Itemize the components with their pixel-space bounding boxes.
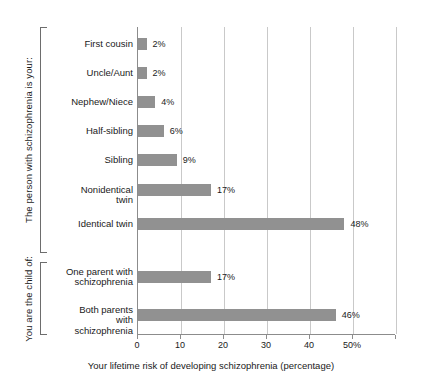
x-tick [137,335,138,339]
group-label-person-with-schizophrenia: The person with schizophrenia is your: [18,27,40,253]
bar-value-label: 6% [164,126,183,136]
category-label: Half-sibling [62,126,133,137]
bar-value-label: 9% [177,155,196,165]
x-axis-title: Your lifetime risk of developing schizop… [0,360,422,371]
category-labels: First cousinUncle/AuntNephew/NieceHalf-s… [62,27,133,335]
bar-value-label: 17% [211,185,235,195]
x-tick-label: 50% [343,340,361,350]
group-block-person-with-schizophrenia: The person with schizophrenia is your: [18,27,68,253]
bar-row: 48% [138,218,395,230]
bar-value-label: 4% [155,97,174,107]
bar [138,218,344,230]
bar-row: 9% [138,154,395,166]
x-tick-label: 40 [304,340,314,350]
category-label: Both parents with schizophrenia [62,305,133,337]
category-label: One parent with schizophrenia [62,267,133,288]
x-tick [266,335,267,339]
category-label: Uncle/Aunt [62,68,133,79]
bar [138,154,177,166]
schizophrenia-risk-bar-chart: The person with schizophrenia is your: Y… [0,0,422,386]
category-label: Identical twin [62,219,133,230]
bar [138,184,211,196]
gridline-60 [396,27,397,334]
group-label-text: You are the child of: [24,256,34,342]
x-tick-label: 30 [261,340,271,350]
x-tick [180,335,181,339]
bar-value-label: 2% [147,68,166,78]
bar [138,271,211,283]
bar-value-label: 2% [147,39,166,49]
group-label-you-are-child-of: You are the child of: [18,262,40,335]
x-tick [395,335,396,339]
bar-row: 4% [138,96,395,108]
bar-row: 2% [138,67,395,79]
bar-row: 46% [138,309,395,321]
bar [138,309,336,321]
x-axis-ticks: 01020304050% [137,335,395,341]
bar [138,125,164,137]
bar-rows: 2%2%4%6%9%17%48%17%46% [138,27,395,334]
x-tick [309,335,310,339]
x-tick [223,335,224,339]
bar [138,67,147,79]
x-tick [352,335,353,339]
category-label: Sibling [62,155,133,166]
x-tick-label: 10 [175,340,185,350]
bar-row: 2% [138,38,395,50]
bar-row: 17% [138,184,395,196]
group-block-you-are-child-of: You are the child of: [18,262,68,335]
bar-value-label: 17% [211,272,235,282]
category-label: Nephew/Niece [62,97,133,108]
category-label: First cousin [62,39,133,50]
group-bracket-1 [40,27,47,253]
category-label: Nonidentical twin [62,185,133,206]
group-axis: The person with schizophrenia is your: Y… [18,20,68,340]
bar-value-label: 46% [336,310,360,320]
plot-area: 2%2%4%6%9%17%48%17%46% [137,27,395,335]
bar [138,38,147,50]
group-bracket-2 [40,262,47,335]
x-tick-label: 20 [218,340,228,350]
bar [138,96,155,108]
bar-value-label: 48% [344,219,368,229]
x-tick-label: 0 [134,340,139,350]
bar-row: 6% [138,125,395,137]
group-label-text: The person with schizophrenia is your: [24,57,34,223]
bar-row: 17% [138,271,395,283]
